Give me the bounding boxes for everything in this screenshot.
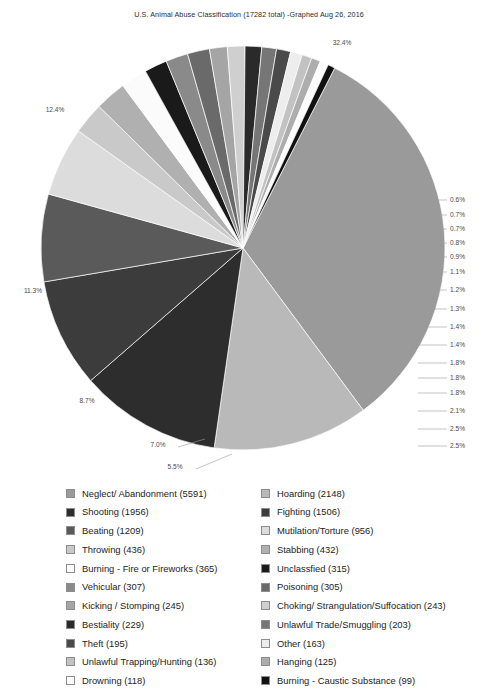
legend-swatch xyxy=(261,508,270,517)
legend-swatch xyxy=(261,657,270,666)
legend-item-label: Bestiality (229) xyxy=(82,620,144,629)
pie-percentage-label: 2.5% xyxy=(450,442,465,449)
legend-swatch xyxy=(66,489,75,498)
legend-item-label: Hoarding (2148) xyxy=(277,489,345,498)
legend-item[interactable]: Poisoning (305) xyxy=(261,578,491,597)
legend-swatch xyxy=(66,620,75,629)
legend-item-label: Vehicular (307) xyxy=(82,582,145,591)
legend-item-label: Shooting (1956) xyxy=(82,507,149,516)
legend-swatch xyxy=(66,657,75,666)
pie-leader-line xyxy=(196,454,232,469)
legend-item-label: Burning - Fire or Fireworks (365) xyxy=(82,564,217,573)
legend-item[interactable]: Other (163) xyxy=(261,634,491,653)
legend-item[interactable]: Unclassfied (315) xyxy=(261,559,491,578)
legend-swatch xyxy=(261,639,270,648)
legend-swatch xyxy=(261,676,270,685)
legend-item-label: Kicking / Stomping (245) xyxy=(82,601,184,610)
pie-percentage-label: 1.4% xyxy=(450,323,465,330)
legend-item-label: Poisoning (305) xyxy=(277,582,343,591)
pie-percentage-label: 1.4% xyxy=(450,341,465,348)
legend-item-label: Unlawful Trade/Smuggling (203) xyxy=(277,620,411,629)
legend-item[interactable]: Burning - Caustic Substance (99) xyxy=(261,671,491,690)
pie-percentage-label: 1.1% xyxy=(450,268,465,275)
legend-item-label: Fighting (1506) xyxy=(277,507,340,516)
legend-item[interactable]: Neglect/ Abandonment (5591) xyxy=(66,484,261,503)
legend-swatch xyxy=(66,583,75,592)
pie-percentage-label: 1.8% xyxy=(450,389,465,396)
pie-chart-area: 32.4%12.4%11.3%8.7%7.0%5.5%0.6%0.7%0.7%0… xyxy=(0,24,498,479)
pie-percentage-label: 0.6% xyxy=(450,196,465,203)
legend-item[interactable]: Vehicular (307) xyxy=(66,578,261,597)
legend-item-label: Drowning (118) xyxy=(82,676,145,685)
chart-page: U.S. Animal Abuse Classification (17282 … xyxy=(0,0,498,697)
legend-swatch xyxy=(66,526,75,535)
pie-percentage-label: 11.3% xyxy=(24,287,42,294)
legend-item-label: Theft (195) xyxy=(82,639,128,648)
pie-percentage-label: 1.2% xyxy=(450,286,465,293)
legend-item[interactable]: Theft (195) xyxy=(66,634,261,653)
legend-swatch xyxy=(66,508,75,517)
legend-item-label: Burning - Caustic Substance (99) xyxy=(277,676,415,685)
legend-item[interactable]: Kicking / Stomping (245) xyxy=(66,596,261,615)
legend-item[interactable]: Bestiality (229) xyxy=(66,615,261,634)
legend-item[interactable]: Mutilation/Torture (956) xyxy=(261,521,491,540)
pie-percentage-label: 2.5% xyxy=(450,425,465,432)
legend-item-label: Stabbing (432) xyxy=(277,545,339,554)
pie-slices[interactable] xyxy=(41,46,445,450)
pie-percentage-label: 1.3% xyxy=(450,305,465,312)
pie-percentage-label: 2.1% xyxy=(450,407,465,414)
pie-percentage-label: 8.7% xyxy=(79,397,94,404)
legend-swatch xyxy=(66,564,75,573)
pie-percentage-label: 5.5% xyxy=(167,463,182,470)
pie-percentage-label: 7.0% xyxy=(150,441,165,448)
legend-item[interactable]: Burning - Fire or Fireworks (365) xyxy=(66,559,261,578)
legend-item-label: Choking/ Strangulation/Suffocation (243) xyxy=(277,601,446,610)
legend-item[interactable]: Unlawful Trapping/Hunting (136) xyxy=(66,653,261,672)
legend-item-label: Beating (1209) xyxy=(82,526,144,535)
legend-item[interactable]: Stabbing (432) xyxy=(261,540,491,559)
legend-item-label: Other (163) xyxy=(277,639,325,648)
pie-percentage-label: 12.4% xyxy=(46,106,65,113)
legend-swatch xyxy=(66,601,75,610)
legend-item-label: Throwing (436) xyxy=(82,545,145,554)
legend-swatch xyxy=(261,489,270,498)
legend-item[interactable]: Hanging (125) xyxy=(261,653,491,672)
legend-item[interactable]: Drowning (118) xyxy=(66,671,261,690)
legend-column-right: Hoarding (2148)Fighting (1506)Mutilation… xyxy=(261,484,491,690)
legend-swatch xyxy=(261,526,270,535)
legend-item-label: Hanging (125) xyxy=(277,657,336,666)
legend-item[interactable]: Unlawful Trade/Smuggling (203) xyxy=(261,615,491,634)
chart-title: U.S. Animal Abuse Classification (17282 … xyxy=(0,10,498,19)
legend-swatch xyxy=(66,676,75,685)
legend-swatch xyxy=(261,620,270,629)
pie-percentage-label: 32.4% xyxy=(333,39,352,46)
legend-item-label: Unlawful Trapping/Hunting (136) xyxy=(82,657,216,666)
pie-percentage-label: 0.7% xyxy=(450,211,465,218)
legend-item[interactable]: Hoarding (2148) xyxy=(261,484,491,503)
legend-item[interactable]: Throwing (436) xyxy=(66,540,261,559)
pie-percentage-label: 0.9% xyxy=(450,253,465,260)
legend-swatch xyxy=(261,601,270,610)
legend-item[interactable]: Fighting (1506) xyxy=(261,503,491,522)
legend-swatch xyxy=(261,564,270,573)
legend-swatch xyxy=(261,545,270,554)
legend-item-label: Unclassfied (315) xyxy=(277,564,350,573)
legend: Neglect/ Abandonment (5591)Shooting (195… xyxy=(0,484,498,690)
legend-item-label: Mutilation/Torture (956) xyxy=(277,526,373,535)
pie-percentage-label: 1.8% xyxy=(450,359,465,366)
legend-swatch xyxy=(66,639,75,648)
legend-item[interactable]: Beating (1209) xyxy=(66,521,261,540)
pie-chart-svg: 32.4%12.4%11.3%8.7%7.0%5.5%0.6%0.7%0.7%0… xyxy=(0,24,498,479)
legend-swatch xyxy=(261,583,270,592)
legend-item[interactable]: Shooting (1956) xyxy=(66,503,261,522)
pie-percentage-label: 0.7% xyxy=(450,225,465,232)
legend-column-left: Neglect/ Abandonment (5591)Shooting (195… xyxy=(66,484,261,690)
pie-percentage-label: 1.8% xyxy=(450,374,465,381)
legend-item[interactable]: Choking/ Strangulation/Suffocation (243) xyxy=(261,596,491,615)
pie-percentage-label: 0.8% xyxy=(450,239,465,246)
legend-item-label: Neglect/ Abandonment (5591) xyxy=(82,489,207,498)
legend-swatch xyxy=(66,545,75,554)
